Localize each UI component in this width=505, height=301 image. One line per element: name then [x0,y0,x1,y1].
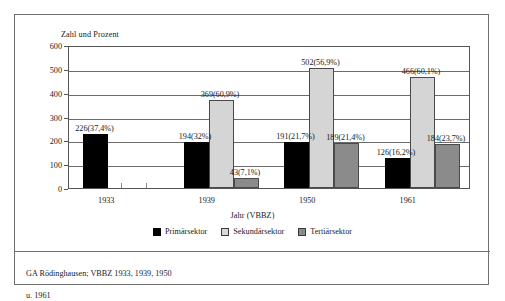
caption-line-2: u. 1961 [26,291,51,300]
figure-border: Zahl und Prozent 0100200300400500600 226… [14,14,489,285]
bar-value-label: 126(16,2%) [377,148,415,157]
legend-item-primärsektor: Primärsektor [153,227,207,236]
y-axis-title: Zahl und Prozent [61,30,119,39]
x-axis-tick-label: 1961 [400,196,416,205]
legend-label: Sekundärsektor [233,227,284,236]
y-axis-tick-label: 100 [28,161,62,170]
y-axis-tick-mark [64,189,68,190]
bar-value-label: 226(37,4%) [75,124,113,133]
bar-1933-primärsektor [83,134,108,188]
y-axis-tick-mark [64,46,68,47]
legend-label: Primärsektor [165,227,207,236]
bar-1939-primärsektor [184,142,209,188]
bar-1950-sekundärsektor [309,68,334,188]
bar-1933-tertiärsektor-empty [146,183,147,188]
bar-value-label: 189(21,4%) [326,133,364,142]
y-axis-tick-mark [64,94,68,95]
y-axis-tick-mark [64,70,68,71]
bar-1933-sekundärsektor-empty [121,183,122,188]
legend-swatch-icon [298,228,306,236]
y-axis-tick-mark [64,118,68,119]
x-axis-tick-label: 1950 [299,196,315,205]
y-axis-tick-label: 0 [28,185,62,194]
chart-canvas: Zahl und Prozent 0100200300400500600 226… [15,15,490,286]
y-axis-tick-label: 400 [28,89,62,98]
y-axis-tick-label: 500 [28,65,62,74]
bar-1961-primärsektor [385,158,410,188]
bar-value-label: 184(23,7%) [427,134,465,143]
bar-1950-primärsektor [284,142,309,188]
bar-value-label: 194(32%) [179,132,211,141]
bar-1961-tertiärsektor [435,144,460,188]
bar-1939-tertiärsektor [234,178,259,188]
y-axis-tick-label: 600 [28,42,62,51]
y-axis-tick-mark [64,141,68,142]
bar-value-label: 43(7,1%) [230,168,260,177]
bar-value-label: 191(21,7%) [276,132,314,141]
x-axis-tick-label: 1933 [98,196,114,205]
x-axis-title: Jahr (VBBZ) [15,211,490,220]
bar-1950-tertiärsektor [334,143,359,188]
y-axis-tick-label: 200 [28,137,62,146]
x-axis-tick-label: 1939 [199,196,215,205]
caption-line-1: GA Rödinghausen; VBBZ 1933, 1939, 1950 [26,269,172,278]
y-axis-tick-mark [64,165,68,166]
y-axis-tick-label: 300 [28,113,62,122]
figure-caption: GA Rödinghausen; VBBZ 1933, 1939, 1950 u… [26,257,172,301]
legend-swatch-icon [221,228,229,236]
legend-item-sekundärsektor: Sekundärsektor [221,227,284,236]
figure-root: Zahl und Prozent 0100200300400500600 226… [0,0,505,301]
bar-value-label: 466(60,1%) [402,67,440,76]
chart-legend: PrimärsektorSekundärsektorTertiärsektor [15,227,490,236]
legend-label: Tertiärsektor [310,227,352,236]
legend-item-tertiärsektor: Tertiärsektor [298,227,352,236]
bar-value-label: 502(56,9%) [301,58,339,67]
bar-1961-sekundärsektor [410,77,435,188]
bar-value-label: 369(60,9%) [201,90,239,99]
caption-divider [15,251,490,252]
legend-swatch-icon [153,228,161,236]
